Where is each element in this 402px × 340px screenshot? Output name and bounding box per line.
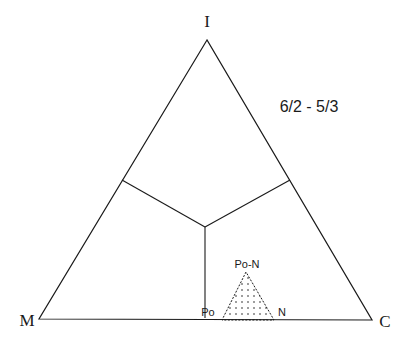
boundary-left: [122, 180, 205, 227]
ratio-label: 6/2 - 5/3: [280, 98, 339, 115]
field-label-apex: Po-N: [234, 258, 259, 270]
boundary-right: [205, 180, 290, 227]
po-n-field: [222, 272, 274, 320]
ternary-diagram: I M C 6/2 - 5/3 Po-N Po N: [0, 0, 402, 340]
field-label-right: N: [278, 306, 286, 318]
vertex-label-top: I: [204, 12, 210, 31]
vertex-label-right: C: [379, 312, 390, 331]
field-label-left: Po: [201, 306, 214, 318]
vertex-label-left: M: [19, 311, 34, 330]
